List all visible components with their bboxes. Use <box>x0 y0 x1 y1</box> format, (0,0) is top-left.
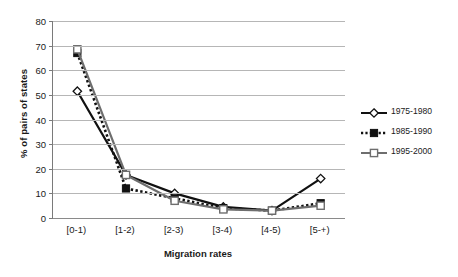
y-tick-label: 80 <box>18 16 46 27</box>
legend-swatch <box>360 125 388 137</box>
chart-figure: % of pairs of states 01020304050607080 [… <box>0 0 458 277</box>
x-tick-label: [3-4) <box>213 224 233 235</box>
y-tick-label: 20 <box>18 163 46 174</box>
y-tick-label: 40 <box>18 114 46 125</box>
data-point-marker-square-open <box>171 197 178 204</box>
legend-label: 1975-1980 <box>391 106 432 116</box>
y-tick-mark <box>49 21 53 22</box>
x-tick-label: [1-2) <box>115 224 135 235</box>
y-tick-label: 30 <box>18 139 46 150</box>
gridline <box>53 144 345 145</box>
y-tick-mark <box>49 218 53 219</box>
chart-legend: 1975-19801985-19901995-2000 <box>360 101 456 161</box>
y-tick-label: 0 <box>18 213 46 224</box>
gridline <box>53 46 345 47</box>
y-tick-label: 60 <box>18 65 46 76</box>
y-tick-mark <box>49 70 53 71</box>
y-tick-label: 10 <box>18 188 46 199</box>
series-line <box>77 53 320 211</box>
y-tick-mark <box>49 144 53 145</box>
legend-swatch <box>360 105 388 117</box>
y-tick-mark <box>49 95 53 96</box>
legend-item: 1995-2000 <box>360 141 456 161</box>
x-axis-title: Migration rates <box>52 248 344 259</box>
data-point-marker-square-open <box>370 149 377 156</box>
gridline <box>53 218 345 219</box>
y-tick-mark <box>49 193 53 194</box>
y-tick-label: 50 <box>18 89 46 100</box>
legend-item: 1985-1990 <box>360 121 456 141</box>
y-axis-tick-labels: 01020304050607080 <box>18 0 46 220</box>
legend-label: 1995-2000 <box>391 146 432 156</box>
data-point-marker-square-filled <box>370 129 377 136</box>
legend-item: 1975-1980 <box>360 101 456 121</box>
gridline <box>53 169 345 170</box>
legend-swatch <box>360 145 388 157</box>
y-tick-label: 70 <box>18 40 46 51</box>
gridline <box>53 95 345 96</box>
gridline <box>53 193 345 194</box>
y-tick-mark <box>49 120 53 121</box>
gridline <box>53 70 345 71</box>
data-point-marker-square-filled <box>122 185 129 192</box>
x-axis-tick-labels: [0-1)[1-2)[2-3)[3-4)[4-5)[5-+) <box>52 224 344 240</box>
y-tick-mark <box>49 169 53 170</box>
x-tick-label: [4-5) <box>261 224 281 235</box>
gridline <box>53 120 345 121</box>
x-tick-label: [2-3) <box>164 224 184 235</box>
data-point-marker-square-open <box>220 206 227 213</box>
y-tick-mark <box>49 46 53 47</box>
data-point-marker-square-open <box>317 202 324 209</box>
plot-area <box>52 21 344 218</box>
data-point-marker-square-open <box>74 46 81 53</box>
x-tick-label: [5-+) <box>310 224 330 235</box>
data-point-marker-square-open <box>268 207 275 214</box>
gridline <box>53 21 345 22</box>
legend-label: 1985-1990 <box>391 126 432 136</box>
data-point-marker-square-open <box>122 171 129 178</box>
data-point-marker-diamond-open <box>370 109 378 117</box>
x-tick-label: [0-1) <box>67 224 87 235</box>
series-line <box>77 49 320 210</box>
